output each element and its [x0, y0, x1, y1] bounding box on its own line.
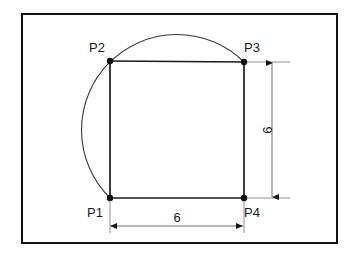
vertex-label-p3: P3 — [244, 40, 260, 55]
vertex-dot-p4 — [241, 195, 247, 201]
geometry-figure: 6 6 P1 P2 P3 P4 — [0, 0, 358, 258]
vertex-label-p4: P4 — [244, 205, 260, 220]
vertex-dot-p2 — [107, 58, 113, 64]
circle-arc — [82, 35, 244, 198]
width-dimension-label: 6 — [173, 210, 180, 225]
figure-canvas: 6 6 P1 P2 P3 P4 — [0, 0, 358, 258]
vertex-label-p2: P2 — [89, 40, 105, 55]
height-dimension-label: 6 — [260, 126, 275, 133]
vertex-dot-p1 — [107, 195, 113, 201]
vertex-dot-p3 — [241, 59, 247, 65]
square-top-edge — [110, 61, 244, 62]
figure-border — [22, 14, 337, 243]
vertex-label-p1: P1 — [87, 205, 103, 220]
